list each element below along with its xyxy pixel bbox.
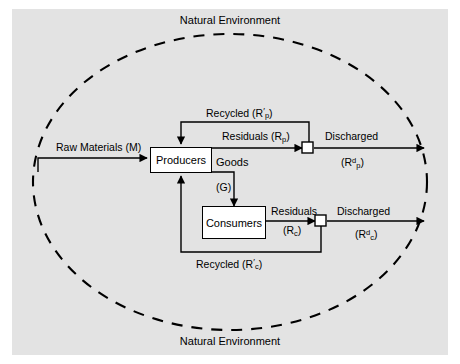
label-raw-materials: Raw Materials (M) xyxy=(56,142,141,153)
label-discharged-producers-symbol: (Rdp) xyxy=(341,157,364,169)
junction-producers-node xyxy=(302,142,313,153)
label-residuals-consumers-symbol: (Rc) xyxy=(283,225,301,237)
label-discharged-consumers: Discharged xyxy=(337,206,390,217)
label-recycled-consumers: Recycled (R′c) xyxy=(196,258,262,271)
flow-raw-materials xyxy=(38,158,147,172)
label-discharged-consumers-symbol: (Rdc) xyxy=(355,229,378,241)
label-goods: Goods xyxy=(216,157,248,168)
node-producers-label: Producers xyxy=(156,154,206,166)
label-natural-environment-top: Natural Environment xyxy=(0,15,460,26)
label-recycled-producers: Recycled (R′p) xyxy=(206,107,273,120)
label-residuals-consumers: Residuals xyxy=(271,206,317,217)
node-consumers[interactable]: Consumers xyxy=(202,206,266,239)
node-producers[interactable]: Producers xyxy=(150,147,212,173)
figure-container: Producers Consumers Natural Environment … xyxy=(0,0,460,364)
label-goods-symbol: (G) xyxy=(216,182,231,193)
label-residuals-producers: Residuals (Rp) xyxy=(222,131,290,143)
label-natural-environment-bottom: Natural Environment xyxy=(0,336,460,347)
node-consumers-label: Consumers xyxy=(206,217,262,229)
label-discharged-producers: Discharged xyxy=(325,131,378,142)
